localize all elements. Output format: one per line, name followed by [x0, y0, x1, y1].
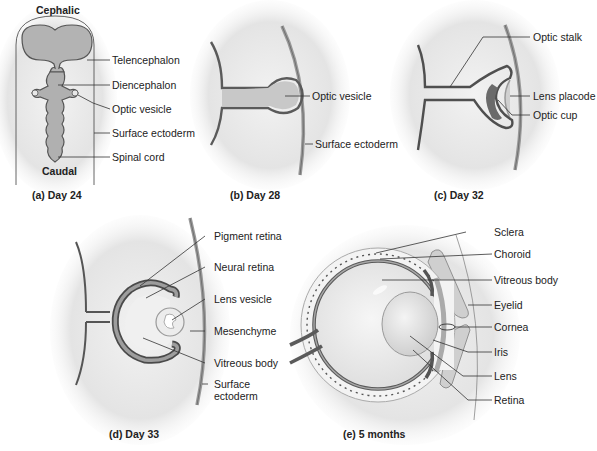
label-surface-ectoderm: Surface ectoderm [112, 127, 195, 139]
label-cornea: Cornea [494, 321, 528, 333]
label-optic-vesicle: Optic vesicle [112, 103, 172, 115]
panel-b-caption: (b) Day 28 [230, 189, 280, 201]
label-pigment-retina: Pigment retina [214, 230, 282, 242]
label-choroid: Choroid [494, 248, 531, 260]
eye-development-figure: Cephalic Caudal Telencephalon Diencephal… [0, 0, 597, 451]
label-lens: Lens [494, 370, 517, 382]
panel-d-caption: (d) Day 33 [109, 428, 159, 440]
label-ectoderm-d: ectoderm [214, 390, 258, 402]
panel-e-caption: (e) 5 months [343, 428, 405, 440]
label-diencephalon: Diencephalon [112, 79, 176, 91]
label-retina: Retina [494, 394, 524, 406]
panel-d-art [50, 215, 230, 445]
panel-a-orientation-top: Cephalic [36, 4, 80, 16]
panel-e-art [290, 225, 520, 445]
label-surface-ectoderm-b: Surface ectoderm [315, 138, 398, 150]
label-vitreous-body-e: Vitreous body [494, 274, 558, 286]
label-optic-cup: Optic cup [533, 109, 577, 121]
label-lens-placode: Lens placode [533, 90, 595, 102]
label-surface-d: Surface [214, 378, 250, 390]
panel-c-caption: (c) Day 32 [434, 189, 484, 201]
label-neural-retina: Neural retina [214, 261, 274, 273]
label-optic-stalk: Optic stalk [533, 31, 582, 43]
label-vitreous-body-d: Vitreous body [214, 357, 278, 369]
panel-a-orientation-bottom: Caudal [42, 165, 77, 177]
label-optic-vesicle-b: Optic vesicle [312, 90, 372, 102]
label-telencephalon: Telencephalon [112, 54, 180, 66]
label-mesenchyme: Mesenchyme [214, 325, 276, 337]
panel-a-caption: (a) Day 24 [32, 189, 82, 201]
label-spinal-cord: Spinal cord [112, 151, 165, 163]
label-iris: Iris [494, 346, 508, 358]
label-sclera: Sclera [494, 226, 524, 238]
label-lens-vesicle: Lens vesicle [214, 293, 272, 305]
label-eyelid: Eyelid [494, 299, 523, 311]
